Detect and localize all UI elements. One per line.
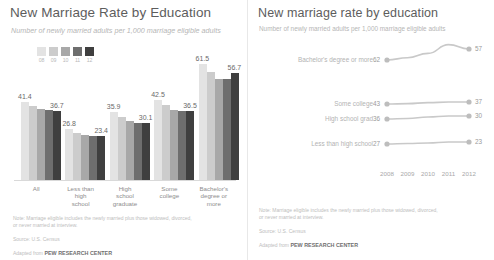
- right-brand: PEW RESEARCH CENTER: [290, 242, 358, 248]
- slope-start-value: 36: [373, 115, 380, 122]
- slope-line: [387, 116, 469, 119]
- slope-end-dot: [466, 46, 471, 51]
- bar-10: [215, 79, 223, 180]
- slope-end-dot: [466, 139, 471, 144]
- right-footnotes: Note: Marriage eligible includes the new…: [259, 200, 459, 249]
- bar-11: [178, 111, 186, 180]
- bar-12: [97, 136, 105, 180]
- bar-category-label: Bachelor'sdegree ormore: [192, 185, 236, 207]
- left-source-text: Source: U.S. Census: [13, 236, 60, 242]
- slope-series-label: High school grad: [325, 115, 373, 122]
- bar-value-label: 41.4: [18, 93, 32, 100]
- slope-line: [387, 142, 469, 144]
- bar-value-label: 36.5: [183, 102, 197, 109]
- bar-11: [45, 110, 53, 180]
- bar-chart-plot: 36.741.423.426.830.135.936.542.556.761.5: [14, 48, 236, 180]
- slope-line: [387, 102, 469, 104]
- bar-08: [199, 64, 207, 180]
- slope-line: [387, 45, 469, 60]
- bar-11: [134, 123, 142, 180]
- left-brand: PEW RESEARCH CENTER: [44, 250, 112, 256]
- bar-09: [73, 133, 81, 180]
- slope-series-label: Less than high school: [311, 140, 373, 147]
- slope-start-value: 27: [373, 140, 380, 147]
- slope-start-value: 62: [373, 56, 380, 63]
- slope-series-label: Some college: [334, 100, 373, 107]
- bar-value-label: 42.5: [151, 91, 165, 98]
- right-chart-subtitle: Number of newly married adults per 1,000…: [259, 25, 446, 32]
- page-title: New Marriage Rate by Education: [10, 5, 211, 20]
- bar-value-label: 30.1: [139, 114, 153, 121]
- slope-start-value: 43: [373, 100, 380, 107]
- slope-series-label: Bachelor's degree or more: [298, 56, 373, 63]
- bar-category-label: All: [14, 185, 58, 192]
- bar-11: [223, 79, 231, 180]
- line-chart-x-axis: 20082009201020112012: [247, 170, 494, 182]
- bar-12: [186, 111, 194, 180]
- left-adapted-prefix: Adapted from: [13, 250, 44, 256]
- slope-end-dot: [466, 113, 471, 118]
- bar-08: [65, 129, 73, 180]
- bar-09: [162, 105, 170, 180]
- bar-10: [170, 110, 178, 180]
- bar-series-wrap: [154, 48, 194, 180]
- bar-08: [154, 100, 162, 180]
- chart-subtitle: Number of newly married adults per 1,000…: [11, 26, 221, 35]
- slope-start-dot: [384, 116, 389, 121]
- bar-08: [21, 102, 29, 180]
- x-axis-year-2008: 2008: [376, 170, 398, 177]
- bar-chart-axis-line: [14, 180, 236, 181]
- bar-12: [53, 111, 61, 180]
- line-chart-plot: Bachelor's degree or more6257Some colleg…: [247, 38, 494, 178]
- slope-start-dot: [384, 141, 389, 146]
- bar-value-label: 56.7: [228, 64, 242, 71]
- right-page-title: New marriage rate by education: [258, 6, 438, 20]
- bar-12: [142, 123, 150, 180]
- bar-value-label: 23.4: [94, 127, 108, 134]
- infographic-page: New Marriage Rate by Education Number of…: [0, 0, 494, 260]
- x-axis-year-2011: 2011: [438, 170, 460, 177]
- slope-start-dot: [384, 57, 389, 62]
- bar-chart-panel: New Marriage Rate by Education Number of…: [0, 0, 247, 260]
- bar-category-label: Highschoolgraduate: [103, 185, 147, 207]
- bar-category-label: Less thanhighschool: [58, 185, 102, 207]
- left-footnotes: Note: Marriage eligible includes the new…: [13, 208, 238, 257]
- right-note-text: Note: Marriage eligible includes the new…: [259, 207, 438, 220]
- slope-end-value: 57: [475, 45, 482, 52]
- bar-09: [207, 72, 215, 180]
- left-note-text: Note: Marriage eligible includes the new…: [13, 215, 192, 228]
- bar-08: [110, 112, 118, 180]
- right-source-text: Source: U.S. Census: [259, 228, 306, 234]
- slope-start-dot: [384, 101, 389, 106]
- x-axis-year-2010: 2010: [417, 170, 439, 177]
- bar-11: [89, 136, 97, 180]
- bar-category-label: Somecollege: [147, 185, 191, 200]
- bar-09: [118, 117, 126, 180]
- bar-series-wrap: [21, 48, 61, 180]
- bar-10: [37, 109, 45, 180]
- bar-value-label: 61.5: [196, 55, 210, 62]
- bar-series-wrap: [65, 48, 105, 180]
- x-axis-year-2012: 2012: [458, 170, 480, 177]
- slope-end-dot: [466, 99, 471, 104]
- bar-09: [29, 106, 37, 180]
- bar-value-label: 35.9: [107, 103, 121, 110]
- bar-10: [81, 135, 89, 180]
- bar-value-label: 26.8: [62, 120, 76, 127]
- slope-end-value: 37: [475, 98, 482, 105]
- bar-value-label: 36.7: [50, 102, 64, 109]
- x-axis-year-2009: 2009: [397, 170, 419, 177]
- slope-end-value: 30: [475, 112, 482, 119]
- slope-end-value: 23: [475, 138, 482, 145]
- bar-12: [231, 73, 239, 180]
- bar-10: [126, 121, 134, 180]
- right-adapted-prefix: Adapted from: [259, 242, 290, 248]
